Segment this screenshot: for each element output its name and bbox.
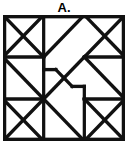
tile-line-group bbox=[3, 15, 125, 141]
pattern-svg bbox=[3, 15, 125, 141]
figure-panel: A. bbox=[0, 0, 128, 143]
figure-label: A. bbox=[0, 0, 128, 15]
pattern-tile bbox=[3, 15, 125, 141]
